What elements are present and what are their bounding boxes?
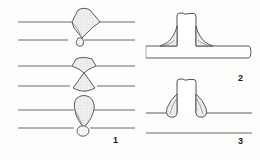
root-bead-teardrop [76,38,84,47]
joint-hourglass-bead [18,58,135,92]
joint-excess-reinforcement [18,8,135,46]
fillet-weld-left-concave [160,26,177,46]
figure-label-2: 2 [238,74,243,83]
vertical-member-outline [177,79,196,113]
weld-face-reinforcement [72,8,100,38]
base-plate-outline [146,46,251,58]
figure-label-3: 3 [238,137,243,146]
panel-1-butt-welds [18,8,135,136]
weld-dome-crown [74,95,94,127]
fillet-weld-left-convex [166,94,177,117]
root-bead-round-drop [77,126,89,136]
panel-3-tee-joint-convex [146,79,252,133]
welding-cross-section-figure: 1 2 3 [0,0,260,160]
vertical-member-outline [177,13,196,46]
fillet-weld-right-concave [196,26,213,46]
weld-lower-cone [73,73,95,91]
fillet-weld-right-convex [196,94,207,117]
panel-2-tee-joint-concave [146,13,251,58]
weld-upper-cone [72,58,96,74]
joint-rounded-crown [18,95,135,136]
figure-drawing-canvas [0,0,260,160]
figure-label-1: 1 [113,136,118,145]
